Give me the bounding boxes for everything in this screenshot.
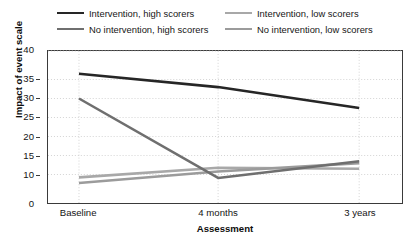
- legend-entry-intervention-high: Intervention, high scorers: [57, 5, 225, 21]
- y-tick-label: 30: [23, 93, 34, 103]
- legend-entry-no-intervention-high: No intervention, high scorers: [57, 21, 225, 37]
- plot-area: [47, 50, 403, 204]
- y-tick-mark: [36, 98, 40, 99]
- y-tick-mark: [36, 117, 40, 118]
- y-tick-label: 25: [23, 112, 34, 122]
- legend-swatch-no-intervention-low: [225, 28, 252, 30]
- x-tick-label: Baseline: [60, 207, 97, 219]
- y-tick-label: 20: [23, 132, 34, 142]
- y-tick-mark: [36, 175, 40, 176]
- legend-label-intervention-high: Intervention, high scorers: [89, 8, 194, 19]
- legend-swatch-no-intervention-high: [57, 28, 84, 30]
- legend-entry-no-intervention-low: No intervention, low scorers: [225, 21, 405, 37]
- series-line: [79, 99, 359, 178]
- series-line: [79, 74, 359, 108]
- x-tick-label: 4 months: [198, 207, 237, 219]
- y-tick-label: 40: [23, 45, 34, 55]
- y-tick-label: 0: [29, 199, 34, 209]
- y-tick-label: 10: [23, 170, 34, 180]
- legend-label-no-intervention-low: No intervention, low scorers: [257, 24, 373, 35]
- y-axis-tick-labels: 010152025303540: [0, 50, 40, 204]
- legend-swatch-intervention-low: [225, 12, 252, 14]
- data-series-lines: [48, 51, 402, 203]
- x-axis-title: Assessment: [47, 223, 403, 234]
- x-tick-label: 3 years: [344, 207, 375, 219]
- x-axis-tick-labels: Baseline4 months3 years: [47, 207, 403, 221]
- y-tick-mark: [36, 137, 40, 138]
- legend-label-no-intervention-high: No intervention, high scorers: [89, 24, 208, 35]
- y-tick-label: 15: [23, 151, 34, 161]
- legend-swatch-intervention-high: [57, 12, 84, 14]
- y-tick-mark: [36, 156, 40, 157]
- y-tick-label: 35: [23, 74, 34, 84]
- legend-label-intervention-low: Intervention, low scorers: [257, 8, 359, 19]
- legend-entry-intervention-low: Intervention, low scorers: [225, 5, 405, 21]
- y-tick-mark: [36, 79, 40, 80]
- chart-legend: Intervention, high scorers Intervention,…: [57, 5, 405, 37]
